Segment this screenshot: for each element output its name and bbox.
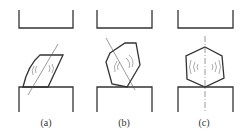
bottom-anvil-a	[19, 87, 73, 112]
label-a: (a)	[31, 117, 61, 128]
label-c: (c)	[189, 117, 219, 128]
bottom-anvil-c	[178, 87, 233, 112]
top-platen-c	[178, 10, 233, 28]
label-b: (b)	[109, 117, 139, 128]
crystal-b	[106, 43, 140, 87]
panel-b	[97, 10, 152, 112]
panel-a	[19, 10, 73, 112]
top-platen-b	[97, 10, 152, 28]
bottom-anvil-b	[97, 87, 152, 112]
panel-c	[178, 10, 233, 112]
top-platen-a	[19, 10, 73, 28]
crystal-a	[23, 55, 63, 87]
